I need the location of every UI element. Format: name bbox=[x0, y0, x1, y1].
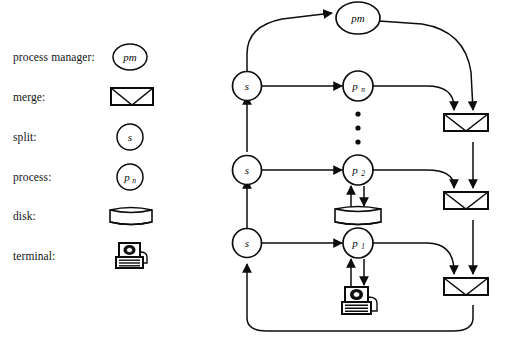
legend-panel: process manager: pm merge: split: bbox=[0, 0, 230, 338]
node-process-p2[interactable]: p 2 bbox=[343, 155, 373, 185]
legend-label-split: split: bbox=[13, 131, 37, 143]
node-merge-2[interactable] bbox=[444, 192, 488, 209]
pm-oval-icon: pm bbox=[106, 40, 166, 74]
node-sub-pn: n bbox=[361, 85, 365, 94]
node-label-pn: p bbox=[351, 80, 358, 92]
process-circle-icon: p n bbox=[106, 160, 166, 194]
legend-symbol-text-process: p bbox=[123, 171, 130, 183]
vertical-ellipsis-icon bbox=[355, 111, 360, 144]
legend-symbol-text-split: s bbox=[128, 131, 132, 143]
node-disk[interactable] bbox=[335, 207, 381, 225]
legend-label-merge: merge: bbox=[13, 91, 45, 103]
figure-canvas: process manager: pm merge: split: bbox=[0, 0, 510, 338]
terminal-workstation-icon bbox=[106, 239, 166, 273]
legend-label-process: process: bbox=[13, 171, 51, 183]
node-label-p1: p bbox=[351, 237, 358, 249]
legend-item-terminal: terminal: bbox=[0, 239, 230, 273]
node-sub-p2: 2 bbox=[361, 169, 365, 178]
legend-item-merge: merge: bbox=[0, 80, 230, 114]
node-label-pm: pm bbox=[350, 12, 365, 24]
pipeline-diagram: pm s p n s bbox=[222, 0, 510, 338]
legend-symbol-text-pm: pm bbox=[122, 51, 137, 63]
split-circle-icon: s bbox=[106, 120, 166, 154]
node-split-2[interactable]: s bbox=[233, 156, 262, 185]
legend-label-process-manager: process manager: bbox=[13, 51, 95, 63]
node-label-p2: p bbox=[351, 164, 358, 176]
node-sub-p1: 1 bbox=[361, 242, 365, 251]
edge-p1-to-merge1 bbox=[372, 243, 454, 274]
legend-label-disk: disk: bbox=[13, 210, 36, 222]
diagram-svg: pm s p n s bbox=[222, 0, 510, 338]
legend-symbol-sub-process: n bbox=[132, 176, 136, 185]
edge-p2-to-merge2 bbox=[372, 170, 454, 188]
disk-cylinder-icon bbox=[106, 199, 166, 233]
legend-label-terminal: terminal: bbox=[13, 250, 55, 262]
merge-box-icon bbox=[106, 80, 166, 114]
node-merge-3[interactable] bbox=[444, 114, 488, 131]
node-split-1[interactable]: s bbox=[233, 229, 262, 258]
edge-pm-to-merge3 bbox=[379, 21, 473, 110]
node-merge-1[interactable] bbox=[444, 278, 488, 295]
node-label-split-3: s bbox=[245, 80, 249, 92]
node-split-3[interactable]: s bbox=[233, 72, 262, 101]
legend-item-process-manager: process manager: pm bbox=[0, 40, 230, 74]
node-label-split-1: s bbox=[245, 237, 249, 249]
node-label-split-2: s bbox=[245, 164, 249, 176]
node-process-p1[interactable]: p 1 bbox=[343, 228, 373, 258]
legend-item-split: split: s bbox=[0, 120, 230, 154]
legend-item-process: process: p n bbox=[0, 160, 230, 194]
edge-split3-to-pm bbox=[247, 13, 332, 73]
node-process-pn[interactable]: p n bbox=[343, 71, 373, 101]
edge-pn-to-merge3 bbox=[372, 86, 454, 110]
node-pm[interactable]: pm bbox=[336, 2, 380, 34]
legend-item-disk: disk: bbox=[0, 199, 230, 233]
node-terminal[interactable] bbox=[342, 287, 377, 314]
